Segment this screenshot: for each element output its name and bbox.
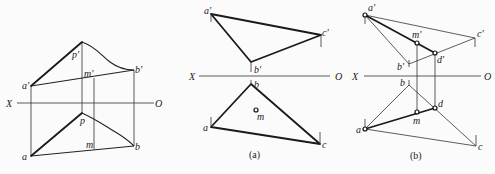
label-c: c (322, 139, 327, 150)
label-c-prime: c' (322, 27, 329, 38)
curve-p-prime-b-prime (82, 42, 134, 70)
label-b-prime: b' (254, 64, 262, 75)
label-d: d (438, 98, 444, 109)
point-m (415, 110, 419, 114)
label-m: m (413, 115, 420, 126)
label-p: p (79, 115, 85, 126)
point-a (363, 127, 367, 131)
axis-o-label: O (155, 98, 162, 109)
point-d (433, 106, 437, 110)
label-c: c (478, 141, 483, 152)
label-b: b (400, 77, 405, 88)
panel-a: X O a' c' b' b a c m (a) (188, 5, 342, 161)
label-c-prime: c' (477, 28, 484, 39)
label-m: m (257, 111, 264, 122)
label-p-prime: p' (71, 49, 80, 60)
label-b: b (135, 141, 140, 152)
label-b-prime: b' (135, 64, 143, 75)
triangle-top-view (365, 85, 476, 146)
projection-diagram: X O p' a' m' b' p a m b X O (0, 0, 495, 174)
label-m-prime: m' (84, 68, 94, 79)
edge-a-b (31, 146, 134, 156)
label-m-prime: m' (412, 29, 422, 40)
label-d-prime: d' (437, 54, 445, 65)
left-panel: X O p' a' m' b' p a m b (5, 42, 162, 162)
label-a-prime: a' (22, 80, 30, 91)
label-b-prime: b' (397, 61, 405, 72)
label-m: m (86, 139, 93, 150)
label-a: a (203, 122, 208, 133)
axis-x-label: X (5, 98, 13, 109)
triangle-top-view (211, 84, 320, 144)
label-b: b (254, 79, 259, 90)
point-a-prime (363, 13, 367, 17)
point-m-prime (415, 41, 419, 45)
axis-o-label: O (335, 71, 342, 82)
edge-a-p (31, 113, 82, 156)
axis-x-label: X (351, 71, 359, 82)
label-a: a (356, 124, 361, 135)
line-a-prime-d-prime (365, 15, 435, 53)
label-a: a (22, 151, 27, 162)
caption-a: (a) (249, 149, 260, 161)
caption-b: (b) (410, 150, 422, 162)
panel-b: X O a' m' c' d' b' b d m a (351, 2, 491, 162)
triangle-front-view (211, 14, 321, 62)
label-a-prime: a' (204, 5, 212, 16)
axis-x-label: X (188, 71, 196, 82)
axis-o-label: O (484, 71, 491, 82)
label-a-prime: a' (368, 2, 376, 13)
